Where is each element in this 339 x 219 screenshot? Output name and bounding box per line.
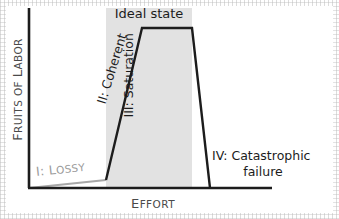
diagram-svg: [0, 0, 339, 219]
region-iv-label: IV: Catastrophic failure: [212, 148, 332, 180]
y-axis-title-initial: F: [10, 133, 25, 141]
region-i-label-body: OSSY: [55, 161, 85, 176]
plot-area: FRUITS OF LABOR EFFORT Ideal state I: LO…: [0, 0, 339, 219]
x-axis-title: EFFORT: [98, 193, 208, 212]
y-axis-title-initial-2: L: [10, 70, 25, 78]
region-iv-label-line2: failure: [212, 164, 332, 180]
ideal-state-label: Ideal state: [106, 6, 192, 21]
y-axis-title-body: RUITS OF: [12, 77, 24, 133]
x-axis-title-body: FFORT: [140, 198, 175, 210]
region-iii-label: III: Saturation: [121, 33, 136, 117]
x-axis-title-initial: E: [131, 196, 140, 211]
region-iv-label-line1: IV: Catastrophic: [212, 148, 332, 164]
figure-container: FRUITS OF LABOR EFFORT Ideal state I: LO…: [0, 0, 339, 219]
y-axis-title-body-2: ABOR: [12, 38, 24, 69]
region-i-label-initial: I: L: [35, 162, 57, 179]
y-axis-title: FRUITS OF LABOR: [7, 30, 26, 150]
